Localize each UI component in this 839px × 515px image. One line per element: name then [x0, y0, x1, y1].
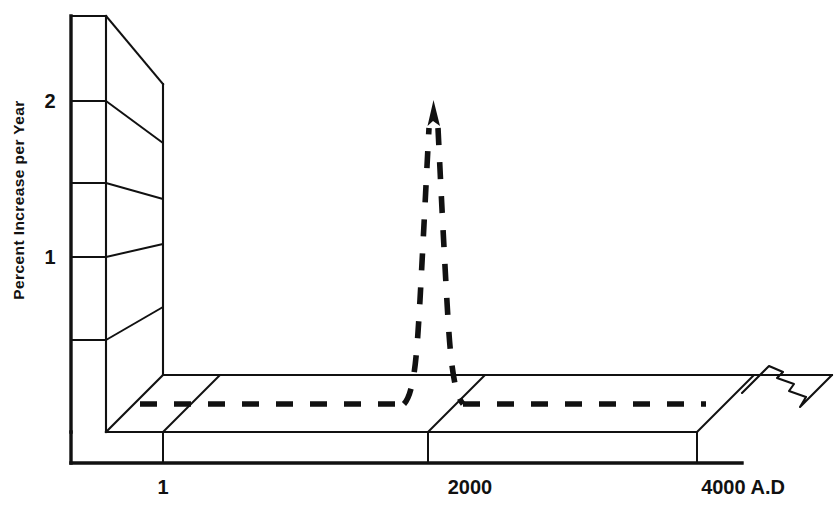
x-tick-label-1: 1 [157, 476, 168, 498]
y-gridline-1p5-recede [106, 183, 163, 199]
y-gridline-2-recede [106, 101, 163, 143]
y-tick-label-2: 2 [44, 90, 55, 112]
y-axis-block [71, 16, 163, 432]
x-tick-label-2000: 2000 [448, 476, 493, 498]
curve-spike-right-leg [438, 128, 463, 404]
peak-arrow-icon [428, 100, 441, 126]
curve-spike-left-leg [404, 128, 429, 404]
y-axis-gridlines [71, 101, 163, 340]
population-growth-rate-chart: 2 1 1 2000 4000 A.D Percent Increase per… [0, 0, 839, 515]
growth-rate-curve [140, 100, 706, 404]
y-axis-title: Percent Increase per Year [10, 100, 27, 299]
y-gridline-1-recede [106, 244, 163, 257]
x-axis-floor-block [71, 366, 832, 463]
y-axis-top-recede [106, 16, 163, 84]
x-tick-label-4000: 4000 A.D [701, 476, 785, 498]
axis-break-mark [742, 366, 832, 407]
y-tick-label-1: 1 [44, 246, 55, 268]
y-gridline-0p5-recede [106, 307, 163, 340]
